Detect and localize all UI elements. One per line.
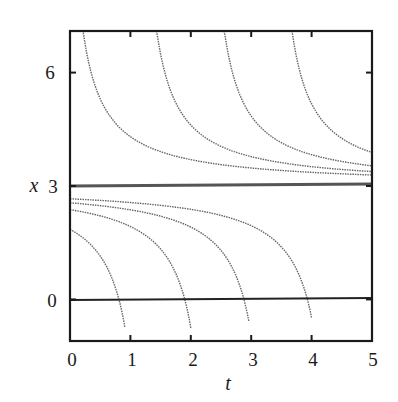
ytick-0: 0 <box>47 290 57 311</box>
zero-line <box>70 298 372 300</box>
x-axis-label: t <box>225 372 231 394</box>
curve-upper-2 <box>156 31 372 172</box>
ytick-6: 6 <box>45 62 55 83</box>
curve-lower-1 <box>70 229 125 327</box>
y-axis-label: x <box>29 174 39 196</box>
solution-curves <box>70 31 372 328</box>
xtick-1: 1 <box>127 349 137 370</box>
plot: 6 3 0 x 0 1 2 3 4 5 t <box>0 0 398 402</box>
xtick-2: 2 <box>188 349 198 370</box>
xtick-5: 5 <box>368 349 378 370</box>
xtick-4: 4 <box>308 349 318 370</box>
curve-lower-3 <box>70 203 249 321</box>
equilibrium-line <box>70 184 372 186</box>
curve-upper-3 <box>224 31 372 166</box>
xtick-3: 3 <box>248 349 258 370</box>
xtick-0: 0 <box>67 349 77 370</box>
curve-upper-4 <box>292 31 372 152</box>
curve-lower-2 <box>70 210 191 328</box>
ytick-3: 3 <box>48 176 58 197</box>
